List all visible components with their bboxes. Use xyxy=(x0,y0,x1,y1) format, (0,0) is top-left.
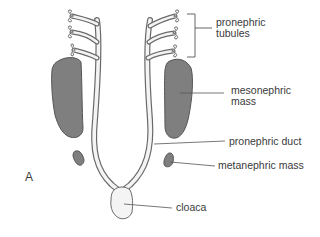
cloaca xyxy=(111,187,133,219)
pronephric-duct-leader xyxy=(154,141,225,144)
right-mesonephric-mass xyxy=(165,59,193,138)
tubules-bracket xyxy=(187,14,212,57)
label-pronephric-duct: pronephric duct xyxy=(229,136,301,147)
label-pronephric-tubules-line2: tubules xyxy=(216,28,266,39)
right-pronephric-tubules xyxy=(148,10,179,58)
kidney-development-diagram xyxy=(0,0,320,237)
left-mesonephric-mass xyxy=(52,58,83,138)
label-cloaca: cloaca xyxy=(176,202,206,213)
right-metanephric-mass xyxy=(164,153,173,167)
pronephric-ducts xyxy=(94,20,150,192)
label-metanephric-mass: metanephric mass xyxy=(218,160,304,171)
label-pronephric-tubules: pronephric tubules xyxy=(216,17,266,39)
left-pronephric-tubules xyxy=(68,10,97,58)
left-metanephric-mass xyxy=(73,151,84,165)
label-mesonephric-mass-line2: mass xyxy=(231,96,291,107)
metanephric-leader xyxy=(170,162,215,166)
label-mesonephric-mass: mesonephric mass xyxy=(231,85,291,107)
panel-letter: A xyxy=(25,170,33,184)
